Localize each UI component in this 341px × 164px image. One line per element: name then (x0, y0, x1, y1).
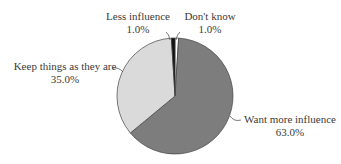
label-want-more-name: Want more influence (240, 113, 340, 126)
label-less-influence: Less influence 1.0% (100, 10, 176, 36)
label-dont-know-pct: 1.0% (175, 23, 245, 36)
label-keep-things-pct: 35.0% (5, 73, 125, 86)
label-dont-know: Don't know 1.0% (175, 10, 245, 36)
label-dont-know-name: Don't know (175, 10, 245, 23)
label-less-influence-name: Less influence (100, 10, 176, 23)
label-want-more: Want more influence 63.0% (240, 113, 340, 139)
label-keep-things-name: Keep things as they are (5, 60, 125, 73)
label-less-influence-pct: 1.0% (100, 23, 176, 36)
label-keep-things: Keep things as they are 35.0% (5, 60, 125, 86)
label-want-more-pct: 63.0% (240, 126, 340, 139)
